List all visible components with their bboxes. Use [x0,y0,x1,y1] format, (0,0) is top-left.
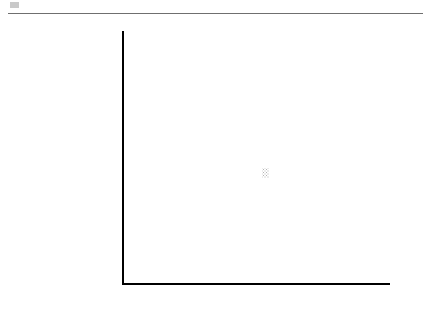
scan-artifact-rule [8,13,423,14]
legend [262,168,283,178]
scan-artifact-speck [10,2,19,8]
x-axis-line [122,283,390,285]
bar-chart-figure [0,0,431,332]
legend-swatch-cecropiaceae [262,168,269,178]
y-axis-line [122,31,124,283]
